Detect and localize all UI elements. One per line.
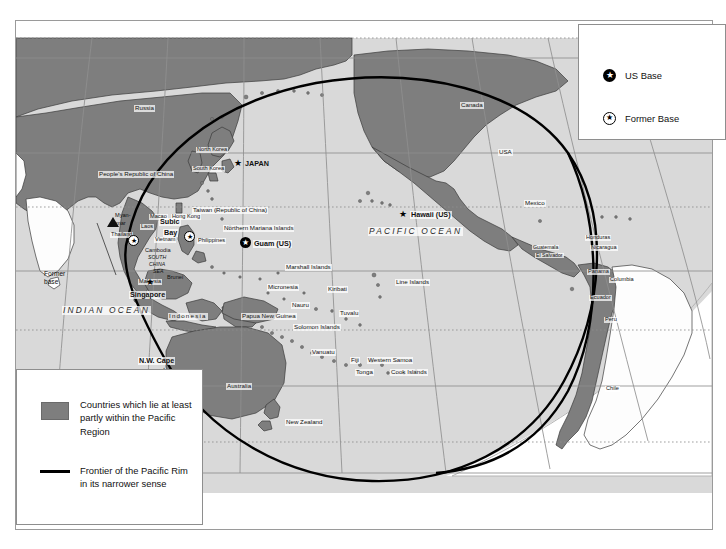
label-peoples-republic-of-china: People's Republic of China — [98, 171, 174, 178]
label-subic-bay-line1: Subic — [159, 218, 181, 226]
label-peru: Peru — [604, 317, 618, 323]
label-line-islands: Line Islands — [395, 279, 430, 286]
label-brunei: Brunei — [166, 275, 184, 281]
label-papua-new-guinea: Papua New Guinea — [241, 313, 297, 320]
label-myanmar-line1: Myan- — [114, 213, 132, 219]
former-base-annotation-line1: Former — [44, 270, 65, 278]
marker-japan[interactable]: ★ — [234, 159, 242, 168]
marker-hawaii[interactable]: ★ — [399, 210, 407, 219]
label-russia: Russia — [134, 105, 155, 112]
label-marshall-islands: Marshall Islands — [285, 264, 332, 271]
marker-subic-bay[interactable]: ★ — [184, 231, 195, 242]
label-south-china-sea-line1: SOUTH — [147, 255, 167, 260]
label-canada: Canada — [460, 102, 484, 109]
label-nw-cape: N.W. Cape — [138, 357, 175, 365]
marker-singapore[interactable]: ★ — [146, 278, 154, 287]
marker-guam[interactable]: ★ — [240, 237, 251, 248]
label-philippines: Philippines — [197, 238, 226, 244]
label-japan: JAPAN — [244, 160, 270, 168]
label-guam: Guam (US) — [253, 240, 292, 248]
legend-label-us-base: US Base — [625, 70, 662, 81]
label-vietnam: Vietnam — [154, 237, 176, 243]
label-singapore: Singapore — [129, 291, 166, 299]
ocean-label-indian: INDIAN OCEAN — [62, 306, 151, 315]
label-laos: Laos — [140, 224, 154, 230]
label-nauru: Nauru — [291, 302, 310, 309]
legend-line-swatch — [40, 470, 70, 473]
us-base-legend: ★ US Base ★ Former Base — [578, 24, 726, 140]
label-hawaii: Hawaii (US) — [410, 211, 452, 219]
label-indonesia: Indonesia — [168, 313, 208, 320]
label-ecuador: Ecuador — [589, 295, 612, 301]
legend-row-former-base: ★ Former Base — [603, 112, 679, 125]
filled-star-icon: ★ — [603, 69, 616, 82]
former-base-annotation: Former base — [44, 270, 65, 287]
label-mexico: Mexico — [524, 200, 546, 207]
label-kiribati: Kiribati — [327, 286, 348, 293]
map-screenshot: PACIFIC OCEAN INDIAN OCEAN Russia Canada… — [0, 0, 726, 549]
label-fiji: Fiji — [350, 357, 360, 364]
ocean-label-pacific: PACIFIC OCEAN — [368, 227, 463, 236]
label-north-korea: North Korea — [196, 147, 228, 153]
label-northern-mariana-islands: Northern Mariana Islands — [223, 225, 294, 232]
label-myanmar-line2: mar — [115, 221, 127, 227]
label-south-china-sea-line3: SEA — [152, 269, 164, 274]
label-panama: Panama — [587, 269, 610, 275]
label-guatemala: Guatemala — [532, 245, 559, 250]
label-tuvalu: Tuvalu — [339, 310, 359, 317]
label-western-samoa: Western Samoa — [367, 357, 413, 364]
outlined-star-icon: ★ — [603, 112, 616, 125]
label-columbia: Columbia — [609, 277, 635, 283]
label-honduras: Honduras — [585, 235, 611, 241]
marker-thailand[interactable]: ★ — [128, 235, 139, 246]
legend-label-former-base: Former Base — [625, 113, 679, 124]
label-chile: Chile — [605, 386, 620, 392]
label-cambodia: Cambodia — [144, 248, 172, 254]
label-south-china-sea-line2: CHINA — [148, 262, 166, 267]
label-cook-islands: Cook Islands — [390, 369, 428, 376]
legend-line-label: Frontier of the Pacific Rim in its narro… — [80, 464, 196, 491]
map-key-legend: Countries which lie at least partly with… — [16, 369, 203, 525]
legend-area-swatch — [41, 402, 69, 420]
label-usa: USA — [498, 149, 513, 156]
label-tonga: Tonga — [355, 369, 374, 376]
legend-area-label: Countries which lie at least partly with… — [80, 398, 192, 438]
former-base-annotation-line2: base — [44, 278, 65, 286]
legend-row-us-base: ★ US Base — [603, 69, 662, 82]
label-australia: Australia — [226, 383, 252, 390]
label-vanuatu: Vanuatu — [311, 349, 336, 356]
label-new-zealand: New Zealand — [285, 419, 323, 426]
label-el-salvador: El Salvador — [535, 253, 564, 258]
label-subic-bay-line2: Bay — [163, 229, 178, 237]
label-nicaragua: Nicaragua — [590, 245, 618, 251]
label-solomon-islands: Solomon Islands — [293, 324, 341, 331]
label-south-korea: South Korea — [192, 166, 225, 172]
label-micronesia: Micronesia — [267, 284, 299, 291]
label-taiwan: Taiwan (Republic of China) — [192, 207, 268, 214]
